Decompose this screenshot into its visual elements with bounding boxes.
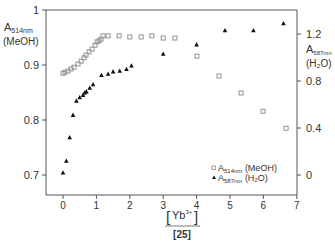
data-point-triangle	[194, 42, 199, 46]
data-point-square	[150, 34, 154, 38]
data-point-square	[284, 126, 288, 130]
x-label-bracket-close: ]	[194, 208, 198, 225]
data-point-triangle	[67, 135, 72, 139]
left-tick-label: 0.8	[24, 114, 39, 126]
data-point-triangle	[99, 73, 104, 77]
data-point-square	[128, 35, 132, 39]
data-point-square	[117, 34, 121, 38]
right-tick-label: 0.4	[306, 122, 321, 134]
data-point-triangle	[251, 28, 256, 32]
series-a587-h2o	[61, 21, 286, 175]
legend-label-h2o: A587nm (H₂O)	[218, 173, 268, 184]
right-axis-title-line2: (H₂O)	[306, 58, 332, 69]
data-point-triangle	[91, 82, 96, 86]
data-point-triangle	[129, 63, 134, 67]
left-tick-label: 1	[33, 4, 39, 16]
x-label-numerator: Yb3+	[172, 209, 193, 221]
chart-container: 0.70.80.91 00.40.81.2 01234567 A514nm (M…	[0, 0, 335, 245]
right-tick-label: 1.2	[306, 28, 321, 40]
left-axis-title-line2: (MeOH)	[3, 36, 39, 47]
left-axis-title: A514nm	[4, 21, 33, 34]
data-point-triangle	[281, 21, 286, 25]
data-point-triangle	[117, 69, 122, 73]
data-point-square	[106, 34, 110, 38]
x-tick-label: 7	[294, 200, 300, 211]
legend-triangle-icon	[212, 176, 216, 180]
series-a514-meoh	[61, 34, 288, 130]
right-axis-title: A587nm	[306, 43, 332, 56]
data-point-square	[161, 36, 165, 40]
x-label-denominator: [25]	[173, 229, 191, 240]
data-point-triangle	[71, 113, 76, 117]
x-tick-label: 1	[94, 200, 100, 211]
data-point-square	[217, 74, 221, 78]
data-point-square	[139, 35, 143, 39]
right-tick-label: 0.8	[306, 75, 321, 87]
x-tick-label: 0	[60, 200, 66, 211]
data-point-triangle	[111, 69, 116, 73]
data-point-square	[239, 91, 243, 95]
x-label-bracket-open: [	[166, 208, 171, 225]
data-point-triangle	[106, 71, 111, 75]
x-tick-label: 5	[227, 200, 233, 211]
legend-square-icon	[212, 166, 216, 170]
data-point-triangle	[61, 170, 66, 174]
data-point-triangle	[64, 158, 69, 162]
axis-labels: A514nm(MeOH)A587nm(H₂O)[Yb3+][25]	[3, 21, 332, 240]
right-tick-label: 0	[306, 169, 312, 181]
chart-svg: 0.70.80.91 00.40.81.2 01234567 A514nm (M…	[0, 0, 335, 245]
data-point-triangle	[124, 67, 129, 71]
legend: A514nm (MeOH)A587nm (H₂O)	[212, 163, 277, 184]
left-tick-label: 0.9	[24, 59, 39, 71]
data-point-triangle	[223, 28, 228, 32]
data-point-triangle	[161, 51, 166, 55]
x-tick-label: 6	[261, 200, 267, 211]
data-point-square	[261, 109, 265, 113]
data-point-square	[173, 36, 177, 40]
data-point-square	[195, 54, 199, 58]
x-tick-label: 2	[127, 200, 133, 211]
left-tick-label: 0.7	[24, 169, 39, 181]
data-point-triangle	[77, 95, 82, 99]
